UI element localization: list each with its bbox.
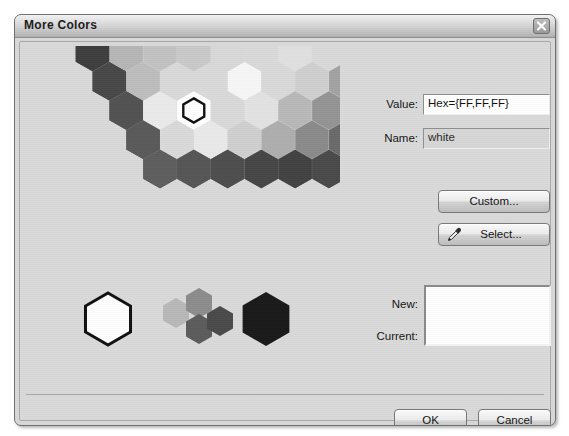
eyedropper-icon: [445, 227, 462, 243]
new-color-label: New:: [356, 298, 418, 310]
ok-button-label: OK: [422, 414, 439, 426]
value-input[interactable]: Hex={FF,FF,FF}: [423, 94, 550, 115]
color-preview-box: [424, 285, 551, 346]
more-colors-dialog: More Colors Value: Hex={FF,FF,FF} Name: …: [14, 14, 556, 426]
current-color-label: Current:: [350, 330, 418, 342]
window-title: More Colors: [24, 18, 97, 32]
select-button-label: Select...: [480, 228, 522, 240]
white-swatch-hex[interactable]: [85, 293, 130, 345]
ok-button[interactable]: OK: [394, 409, 467, 426]
black-swatch-hex[interactable]: [243, 292, 290, 346]
new-color-swatch: [426, 287, 549, 316]
palette-hex[interactable]: [177, 46, 210, 71]
footer-separator: [26, 394, 544, 395]
selected-palette-hex[interactable]: [183, 98, 204, 122]
custom-button[interactable]: Custom...: [438, 190, 550, 213]
select-button[interactable]: Select...: [438, 223, 550, 246]
close-icon[interactable]: [533, 18, 550, 34]
dialog-client-area: Value: Hex={FF,FF,FF} Name: white Custom…: [19, 41, 551, 421]
cancel-button[interactable]: Cancel: [478, 409, 551, 426]
name-input[interactable]: white: [423, 128, 550, 149]
current-color-swatch: [426, 316, 549, 345]
hexagon-color-wheel[interactable]: [30, 46, 340, 366]
name-label: Name:: [360, 132, 418, 144]
custom-button-label: Custom...: [469, 195, 518, 207]
value-label: Value:: [360, 98, 418, 110]
cancel-button-label: Cancel: [497, 414, 533, 426]
gray-swatch-hex[interactable]: [163, 298, 189, 328]
title-bar: More Colors: [15, 15, 555, 38]
